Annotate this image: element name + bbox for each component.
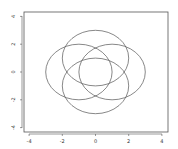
y-tick-label: 0 [10,70,16,73]
x-tick-label: -2 [60,138,65,144]
circles [46,30,146,113]
y-tick-label: 2 [10,43,16,46]
x-axis: -4-2024 [27,134,164,144]
x-tick-label: 2 [127,138,130,144]
plot: -4-2024 420-2-4 [0,0,178,149]
y-tick-label: 4 [10,15,16,18]
y-tick-label: -4 [10,125,16,130]
y-tick-label: -2 [10,97,16,102]
x-tick-label: 0 [94,138,97,144]
x-tick-label: -4 [27,138,32,144]
y-axis: 420-2-4 [10,15,22,130]
x-tick-label: 4 [160,138,163,144]
